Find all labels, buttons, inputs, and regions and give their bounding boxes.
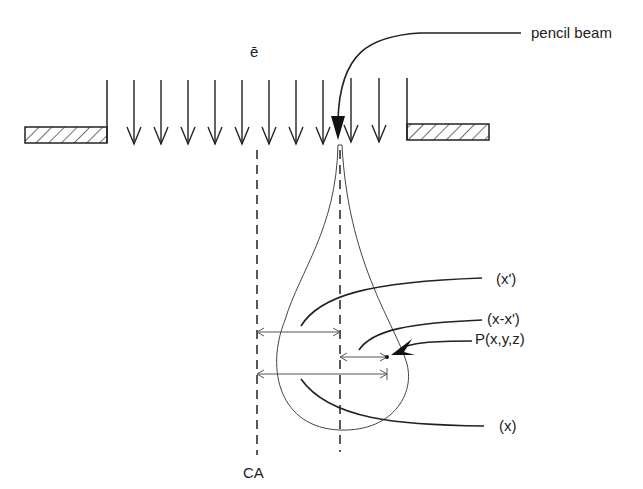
pencil-beam-diagram: ē pencil beam CA: [0, 0, 643, 489]
electron-label: ē: [250, 43, 258, 60]
leader-curves: [301, 278, 484, 426]
point-label: P(x,y,z): [475, 330, 525, 347]
electron-beam-arrows: [127, 78, 386, 144]
pencil-beam-label: pencil beam: [531, 24, 612, 41]
left-collimator: [25, 80, 107, 143]
beam-arrow: [262, 80, 276, 144]
point-p-arrowhead: [391, 339, 415, 355]
central-axis-label: CA: [243, 464, 264, 481]
beam-arrow: [154, 80, 168, 144]
point-p: [385, 355, 389, 359]
beam-arrow: [235, 80, 249, 144]
beam-arrow: [289, 80, 303, 144]
beam-arrow: [181, 80, 195, 144]
beam-arrow: [316, 80, 330, 144]
beam-arrow: [344, 78, 358, 142]
x-prime-label: (x'): [496, 270, 516, 287]
beam-arrow: [127, 80, 141, 144]
right-collimator: [407, 78, 489, 140]
beam-arrow: [208, 80, 222, 144]
beam-arrow: [372, 78, 386, 142]
x-minus-x-prime-label: (x-x'): [487, 310, 520, 327]
dose-distribution-teardrop: [277, 145, 409, 430]
x-label: (x): [499, 417, 517, 434]
